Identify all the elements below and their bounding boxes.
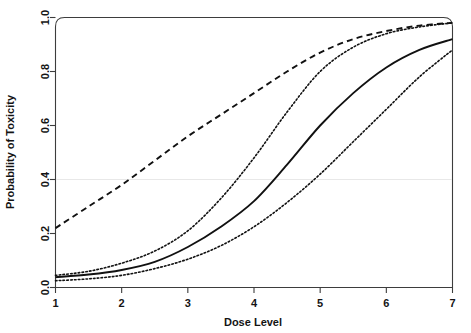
x-tick-label-4: 4 <box>251 297 258 309</box>
y-tick-label-0.6: 0.6 <box>39 118 51 133</box>
y-tick-label-0.2: 0.2 <box>39 226 51 241</box>
y-tick-label-0.0: 0.0 <box>39 280 51 295</box>
x-tick-label-2: 2 <box>119 297 125 309</box>
plot-background <box>0 0 471 333</box>
y-tick-label-0.4: 0.4 <box>39 171 51 187</box>
x-tick-label-1: 1 <box>52 297 58 309</box>
chart-figure: 1234567 0.00.20.40.60.81.0 Dose Level Pr… <box>0 0 471 333</box>
y-tick-label-0.8: 0.8 <box>39 64 51 79</box>
y-axis-title: Probability of Toxicity <box>4 94 16 209</box>
x-tick-label-7: 7 <box>449 297 455 309</box>
x-tick-label-6: 6 <box>383 297 389 309</box>
probability-of-toxicity-plot: 1234567 0.00.20.40.60.81.0 Dose Level Pr… <box>0 0 471 333</box>
x-axis-title: Dose Level <box>224 316 282 328</box>
x-tick-label-3: 3 <box>185 297 191 309</box>
x-tick-label-5: 5 <box>317 297 323 309</box>
y-tick-label-1.0: 1.0 <box>39 10 51 25</box>
